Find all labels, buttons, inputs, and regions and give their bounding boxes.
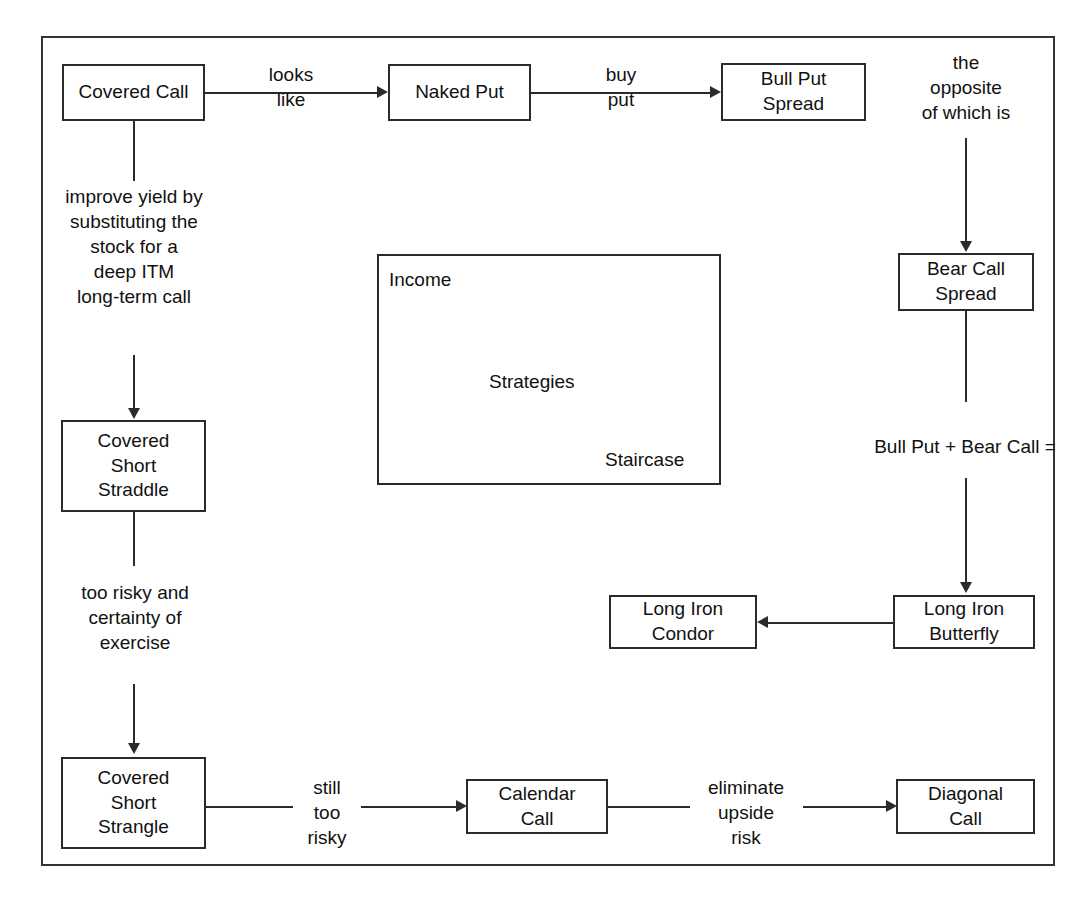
arrowhead-bear-call-spread — [960, 241, 972, 252]
edge-calendar-to-diagonal-call-b — [803, 806, 887, 808]
arrowhead-covered-short-straddle — [128, 408, 140, 419]
arrowhead-bull-put-spread — [710, 86, 721, 98]
edge-to-long-iron-butterfly — [965, 478, 967, 583]
edge-label-eliminate-upside-risk: eliminate upside risk — [692, 775, 800, 850]
edge-calendar-to-diagonal-call-a — [608, 806, 690, 808]
edge-to-covered-short-straddle — [133, 355, 135, 409]
node-naked-put[interactable]: Naked Put — [388, 64, 531, 121]
edge-covered-short-straddle-down-stub — [133, 512, 135, 566]
diagram-canvas: Income Strategies Staircase Covered Call… — [0, 0, 1085, 905]
arrowhead-covered-short-strangle — [128, 743, 140, 754]
arrowhead-long-iron-butterfly — [960, 582, 972, 593]
arrowhead-naked-put — [377, 86, 388, 98]
node-long-iron-butterfly[interactable]: Long Iron Butterfly — [893, 595, 1035, 649]
edge-to-covered-short-strangle — [133, 684, 135, 744]
edge-long-iron-butterfly-to-condor — [768, 622, 893, 624]
edge-covered-call-down-stub — [133, 121, 135, 181]
panel-label-strategies: Strategies — [489, 371, 575, 393]
edge-label-too-risky: too risky and certainty of exercise — [55, 580, 215, 655]
edge-label-improve-yield: improve yield by substituting the stock … — [48, 184, 220, 309]
node-calendar-call[interactable]: Calendar Call — [466, 779, 608, 834]
edge-strangle-to-calendar-call-a — [206, 806, 293, 808]
clipped-header-text — [0, 0, 1085, 3]
edge-label-opposite-of-which-is: the opposite of which is — [890, 50, 1042, 125]
edge-bear-call-spread-down-stub — [965, 311, 967, 402]
edge-label-still-too-risky: still too risky — [296, 775, 358, 850]
panel-label-income: Income — [389, 269, 451, 291]
node-bull-put-spread[interactable]: Bull Put Spread — [721, 63, 866, 121]
arrowhead-long-iron-condor — [757, 616, 768, 628]
edge-strangle-to-calendar-call-b — [361, 806, 457, 808]
panel-label-staircase: Staircase — [605, 449, 684, 471]
edge-label-bull-put-plus-bear-call: Bull Put + Bear Call = — [855, 434, 1075, 459]
node-covered-short-straddle[interactable]: Covered Short Straddle — [61, 420, 206, 512]
node-covered-call[interactable]: Covered Call — [62, 64, 205, 121]
edge-label-looks-like: looks like — [245, 62, 337, 112]
node-diagonal-call[interactable]: Diagonal Call — [896, 779, 1035, 834]
edge-label-buy-put: buy put — [575, 62, 667, 112]
node-bear-call-spread[interactable]: Bear Call Spread — [898, 253, 1034, 311]
node-covered-short-strangle[interactable]: Covered Short Strangle — [61, 757, 206, 849]
node-long-iron-condor[interactable]: Long Iron Condor — [609, 595, 757, 649]
edge-to-bear-call-spread — [965, 138, 967, 242]
